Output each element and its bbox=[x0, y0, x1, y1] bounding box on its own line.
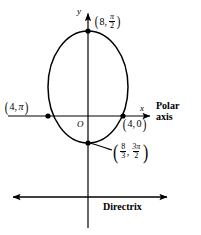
polar-conic-figure: y x O Polar axis Directrix ( 8, π 2 ) ( bbox=[0, 0, 201, 235]
y-axis-label: y bbox=[77, 7, 81, 16]
point-label-top-vertex: ( 8, π 2 ) bbox=[94, 13, 121, 30]
point-label-left: ( 4, π ) bbox=[4, 101, 29, 114]
right-point-angle: 0 bbox=[137, 119, 142, 129]
paren-open: ( bbox=[113, 143, 118, 161]
paren-open: ( bbox=[123, 118, 127, 131]
polar-axis-label: Polar axis bbox=[156, 101, 179, 122]
origin-label: O bbox=[77, 120, 84, 129]
directrix-label: Directrix bbox=[103, 202, 142, 212]
paren-open: ( bbox=[95, 15, 99, 28]
polar-axis-label-line2: axis bbox=[156, 112, 179, 123]
paren-close: ) bbox=[143, 143, 148, 161]
bottom-vertex-radius-fraction: 8 3 bbox=[120, 143, 126, 160]
bottom-vertex-angle-fraction: 3π 2 bbox=[131, 143, 141, 160]
point-dot-top-vertex bbox=[85, 28, 90, 33]
point-dot-bottom-vertex bbox=[85, 140, 90, 145]
point-dot-left bbox=[45, 113, 50, 118]
left-point-angle: π bbox=[19, 102, 24, 112]
leader-line-bottom-vertex bbox=[88, 143, 112, 150]
x-axis-label: x bbox=[140, 104, 144, 113]
point-label-bottom-vertex: ( 8 3 , 3π 2 ) bbox=[112, 143, 150, 161]
point-label-right: ( 4, 0 ) bbox=[122, 118, 147, 131]
paren-close: ) bbox=[143, 118, 147, 131]
paren-close: ) bbox=[25, 101, 29, 114]
paren-open: ( bbox=[5, 101, 9, 114]
paren-close: ) bbox=[117, 15, 121, 28]
polar-axis-label-line1: Polar bbox=[156, 101, 179, 112]
top-vertex-angle-fraction: π 2 bbox=[109, 13, 115, 30]
